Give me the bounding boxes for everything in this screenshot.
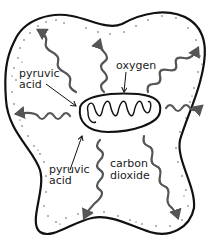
- label-carbon-dioxide-line2: dioxide: [110, 170, 150, 182]
- label-oxygen: oxygen: [116, 60, 156, 72]
- label-pyruvic-acid-top-line2: acid: [19, 79, 42, 91]
- label-pyruvic-acid-bottom-line2: acid: [49, 175, 72, 187]
- cell-diagram: [0, 0, 213, 242]
